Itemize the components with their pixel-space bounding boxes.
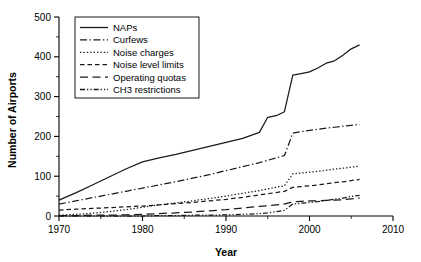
y-tick-label: 200 [34,131,51,142]
y-tick-label: 0 [45,211,51,222]
y-axis-title-group: Number of Airports [6,72,18,168]
x-tick-label: 1990 [215,224,238,235]
x-axis-title: Year [215,246,237,258]
y-axis-ticks [54,17,59,216]
x-tick-label: 1980 [131,224,154,235]
legend-label-operating-quotas: Operating quotas [113,72,186,83]
y-tick-label: 400 [34,51,51,62]
legend-label-noise-charges: Noise charges [113,47,174,58]
x-axis-tick-labels: 19701980199020002010 [48,224,405,235]
y-tick-label: 500 [34,12,51,23]
chart-legend: NAPsCurfewsNoise chargesNoise level limi… [75,17,199,98]
x-tick-label: 1970 [48,224,71,235]
chart-container: 0100200300400500 19701980199020002010 Nu… [0,0,421,262]
series-line-curfews [59,124,360,204]
legend-label-naps: NAPs [113,22,138,33]
y-tick-label: 300 [34,91,51,102]
y-axis-title: Number of Airports [6,72,18,168]
series-line-ch3-restrictions [59,195,360,216]
x-tick-label: 2000 [298,224,321,235]
legend-label-noise-level-limits: Noise level limits [113,59,184,70]
line-chart: 0100200300400500 19701980199020002010 Nu… [0,0,421,262]
legend-label-ch3-restrictions: CH3 restrictions [113,84,181,95]
y-tick-label: 100 [34,171,51,182]
x-tick-label: 2010 [382,224,405,235]
legend-label-curfews: Curfews [113,34,148,45]
x-axis-ticks [59,216,393,221]
y-axis-tick-labels: 0100200300400500 [34,12,51,222]
series-line-noise-level-limits [59,179,360,210]
